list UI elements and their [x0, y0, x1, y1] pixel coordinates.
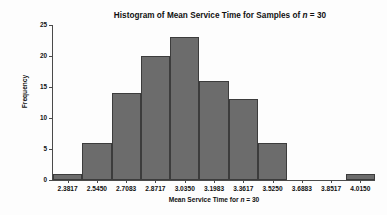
x-tick-mark: [302, 180, 303, 183]
chart-title-before: Histogram of Mean Service Time for Sampl…: [114, 11, 303, 20]
histogram-bar: [141, 56, 170, 180]
bar-group: [53, 25, 375, 180]
histogram-bar: [112, 93, 141, 180]
x-tick-mark: [360, 180, 361, 183]
x-tick-mark: [155, 180, 156, 183]
x-tick-mark: [331, 180, 332, 183]
x-tick-mark: [68, 180, 69, 183]
x-tick-mark: [97, 180, 98, 183]
histogram-bar: [170, 37, 199, 180]
histogram-figure: Histogram of Mean Service Time for Sampl…: [0, 0, 387, 215]
x-tick-mark: [243, 180, 244, 183]
histogram-bar: [229, 99, 258, 180]
histogram-bar: [199, 81, 228, 180]
y-tick-label: 25: [40, 21, 47, 29]
y-axis-label: Frequency: [21, 52, 28, 132]
y-tick-label: 0: [43, 176, 47, 184]
x-axis-label-after: = 30: [244, 196, 259, 203]
y-tick-label: 15: [40, 83, 47, 91]
x-tick-mark: [273, 180, 274, 183]
y-tick-label: 20: [40, 52, 47, 60]
x-axis-label: Mean Service Time for n = 30: [53, 196, 375, 203]
y-tick-mark: [49, 180, 53, 181]
chart-title-after: = 30: [308, 11, 327, 20]
histogram-bar: [82, 143, 111, 180]
x-axis-label-before: Mean Service Time for: [169, 196, 241, 203]
histogram-bar: [258, 143, 287, 180]
x-tick-label: 4.0150: [338, 184, 382, 193]
x-tick-label-group: 2.38172.54502.70832.87173.03503.19833.36…: [53, 184, 375, 196]
plot-area: 0510152025: [53, 25, 375, 180]
y-tick-label: 10: [40, 114, 47, 122]
chart-title: Histogram of Mean Service Time for Sampl…: [60, 11, 380, 20]
y-tick-label: 5: [43, 145, 47, 153]
x-tick-mark: [214, 180, 215, 183]
x-tick-mark: [126, 180, 127, 183]
x-tick-mark: [185, 180, 186, 183]
